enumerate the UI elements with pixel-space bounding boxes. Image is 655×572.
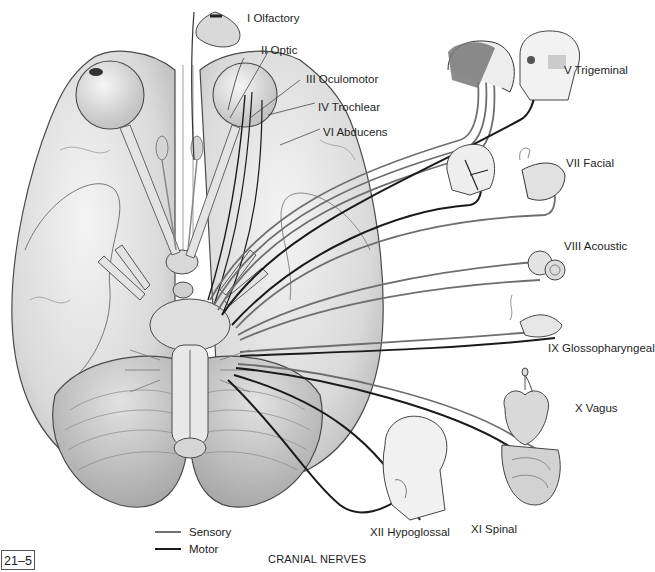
label-spinal: XI Spinal — [471, 523, 517, 536]
neck-head-spinal — [383, 416, 447, 520]
label-glossopharyngeal: IX Glossopharyngeal — [548, 342, 655, 355]
figure-caption: CRANIAL NERVES — [268, 553, 366, 565]
label-acoustic: VIII Acoustic — [564, 240, 627, 253]
legend-label-motor: Motor — [189, 543, 218, 555]
face-muscles — [447, 144, 495, 195]
inner-ear — [528, 251, 565, 280]
label-hypoglossal: XII Hypoglossal — [370, 526, 450, 539]
label-trigeminal: V Trigeminal — [564, 64, 628, 77]
tongue-pharynx — [510, 295, 562, 337]
label-oculomotor: III Oculomotor — [306, 73, 378, 86]
label-olfactory: I Olfactory — [247, 12, 299, 25]
legend-label-sensory: Sensory — [189, 526, 231, 538]
figure-number: 21–5 — [1, 550, 35, 570]
label-trochlear: IV Trochlear — [318, 101, 380, 114]
legend-item-motor: Motor — [155, 543, 218, 555]
motor-line-swatch — [155, 548, 181, 550]
label-vagus: X Vagus — [575, 402, 618, 415]
sensory-line-swatch — [155, 531, 181, 533]
mouth-section — [520, 148, 565, 200]
head-dermatome — [448, 41, 514, 92]
label-abducens: VI Abducens — [323, 126, 388, 139]
label-facial: VII Facial — [566, 157, 614, 170]
legend-item-sensory: Sensory — [155, 526, 231, 538]
label-optic: II Optic — [261, 44, 297, 57]
